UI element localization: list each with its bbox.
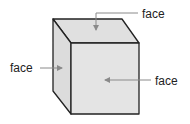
label-top-face: face bbox=[142, 7, 165, 21]
cube-svg: face face face bbox=[0, 0, 190, 124]
cube-front-face bbox=[71, 43, 139, 114]
label-left-face: face bbox=[10, 61, 33, 75]
cube-diagram: face face face bbox=[0, 0, 190, 124]
label-front-face: face bbox=[155, 74, 178, 88]
